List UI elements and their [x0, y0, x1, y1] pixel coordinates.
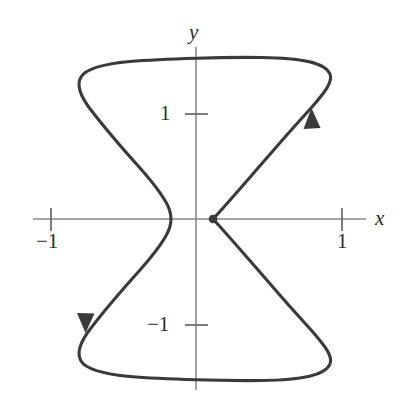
y-axis-label: y: [189, 22, 198, 43]
arrowhead-up-icon: [304, 108, 321, 129]
x-axis-label: x: [375, 208, 384, 229]
x-tick-label-negative-one: −1: [36, 231, 58, 252]
arrowhead-down-icon: [77, 313, 95, 333]
y-tick-label-positive-one: 1: [160, 103, 171, 124]
figure-container: y x −1 1 1 −1: [0, 0, 409, 410]
x-tick-label-positive-one: 1: [337, 231, 348, 252]
parametric-curve-plot: [0, 0, 409, 410]
self-intersection-node-dot: [209, 215, 218, 224]
y-tick-label-negative-one: −1: [147, 314, 169, 335]
